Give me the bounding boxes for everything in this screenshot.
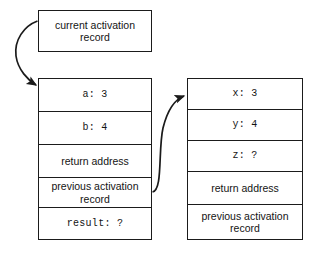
current-activation-record-box: current activation record bbox=[38, 10, 152, 52]
current-activation-record-label: current activation record bbox=[51, 19, 139, 44]
left-stack-cell-result: result: ? bbox=[39, 208, 151, 239]
right-stack-cell-return-address-text: return address bbox=[208, 182, 282, 194]
left-activation-record-stack: a: 3 b: 4 return address previous activa… bbox=[38, 78, 152, 240]
previous-record-link-arrow bbox=[153, 96, 185, 192]
left-stack-cell-previous-activation-record: previous activation record bbox=[39, 178, 151, 208]
right-stack-cell-previous-activation-record: previous activation record bbox=[188, 205, 302, 239]
right-stack-cell-return-address: return address bbox=[188, 172, 302, 205]
left-stack-cell-b-text: b: 4 bbox=[79, 122, 110, 134]
right-activation-record-stack: x: 3 y: 4 z: ? return address previous a… bbox=[187, 78, 303, 240]
left-stack-cell-return-address-text: return address bbox=[58, 155, 132, 167]
right-stack-cell-previous-activation-record-text: previous activation record bbox=[188, 210, 302, 235]
right-stack-cell-z: z: ? bbox=[188, 141, 302, 172]
right-stack-cell-y: y: 4 bbox=[188, 110, 302, 141]
current-record-pointer-arrow bbox=[16, 21, 38, 85]
left-stack-cell-result-text: result: ? bbox=[64, 218, 127, 230]
left-stack-cell-b: b: 4 bbox=[39, 112, 151, 145]
left-stack-cell-previous-activation-record-text: previous activation record bbox=[39, 180, 151, 205]
left-stack-cell-return-address: return address bbox=[39, 145, 151, 178]
right-stack-cell-y-text: y: 4 bbox=[229, 119, 260, 131]
activation-record-diagram: current activation record a: 3 b: 4 retu… bbox=[0, 0, 319, 255]
right-stack-cell-z-text: z: ? bbox=[229, 150, 260, 162]
right-stack-cell-x-text: x: 3 bbox=[229, 88, 260, 100]
left-stack-cell-a: a: 3 bbox=[39, 79, 151, 112]
current-activation-record-label-line1: current activation bbox=[55, 19, 135, 31]
right-stack-cell-x: x: 3 bbox=[188, 79, 302, 110]
left-stack-cell-a-text: a: 3 bbox=[79, 89, 110, 101]
current-activation-record-label-line2: record bbox=[80, 31, 110, 43]
